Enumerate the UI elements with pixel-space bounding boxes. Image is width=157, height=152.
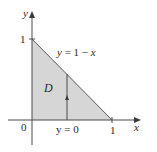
y-axis-label: y [22, 7, 28, 19]
lower-label-var: y [56, 123, 62, 135]
lower-label-expr: 0 [73, 123, 79, 135]
y-axis-arrow-icon [29, 11, 35, 18]
region-diagram: y 1 y = 1 − x D 0 y = 0 1 x [0, 0, 157, 152]
upper-label-eq: = [65, 46, 71, 58]
origin-label: 0 [21, 121, 27, 133]
region-label: D [43, 81, 53, 95]
lower-label-eq: = [64, 123, 70, 135]
x-axis-label: x [133, 121, 139, 133]
upper-label-one: 1 − [74, 46, 91, 58]
lower-boundary-label: y = 0 [56, 123, 79, 135]
upper-label-x: x [90, 46, 96, 58]
upper-label-var: y [56, 46, 62, 58]
x-tick-label: 1 [110, 124, 116, 136]
upper-boundary-label: y = 1 − x [56, 46, 96, 58]
y-tick-label: 1 [20, 33, 26, 45]
